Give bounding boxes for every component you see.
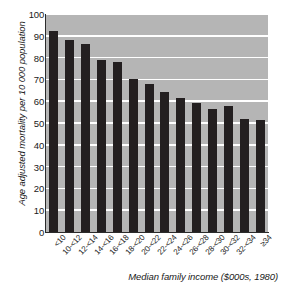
bar xyxy=(49,31,58,232)
bar xyxy=(65,40,74,232)
y-tick-label: 40 xyxy=(20,139,44,150)
y-tick-label: 10 xyxy=(20,205,44,216)
x-axis-title: Median family income ($000s, 1980) xyxy=(0,271,278,282)
bars-container xyxy=(46,14,268,232)
bar xyxy=(224,106,233,232)
y-tick-label: 70 xyxy=(20,74,44,85)
y-tick-label: 100 xyxy=(20,9,44,20)
bar xyxy=(113,62,122,232)
y-tick-label: 30 xyxy=(20,161,44,172)
bar xyxy=(145,84,154,232)
y-tick-label: 20 xyxy=(20,183,44,194)
y-axis-line xyxy=(45,14,46,233)
bar xyxy=(256,120,265,232)
bar-chart: Age adjusted mortality per 10 000 popula… xyxy=(0,0,284,292)
y-tick-label: 50 xyxy=(20,118,44,129)
x-axis-tick-labels: <1010-<1212-<1414-<1616-<1818-<2020-<222… xyxy=(46,233,268,267)
bar xyxy=(192,103,201,232)
y-tick-label: 0 xyxy=(20,227,44,238)
y-tick-label: 60 xyxy=(20,96,44,107)
y-axis-tick-labels: 0102030405060708090100 xyxy=(20,14,44,232)
bar xyxy=(176,98,185,232)
x-tick-label: ≥34 xyxy=(258,233,273,248)
y-tick-label: 80 xyxy=(20,52,44,63)
y-tick-label: 90 xyxy=(20,30,44,41)
bar xyxy=(129,79,138,232)
bar xyxy=(240,119,249,232)
bar xyxy=(208,109,217,232)
bar xyxy=(81,44,90,232)
bar xyxy=(97,60,106,232)
bar xyxy=(160,92,169,232)
plot-area xyxy=(46,14,268,232)
